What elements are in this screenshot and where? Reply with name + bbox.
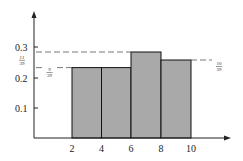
svg-text:39: 39 <box>217 67 223 72</box>
svg-text:39: 39 <box>47 73 53 78</box>
x-axis-arrow-icon <box>224 136 231 141</box>
fraction-label-9-39: 9 39 <box>47 67 53 78</box>
bar-8-10 <box>161 60 191 138</box>
x-tick-label: 4 <box>99 143 104 154</box>
bar-2-4 <box>72 68 102 138</box>
y-tick-label: 0.3 <box>15 42 28 53</box>
fraction-label-11-39: 11 39 <box>19 55 25 66</box>
svg-text:39: 39 <box>20 61 26 66</box>
fraction-label-10-39: 10 39 <box>216 61 222 72</box>
x-tick-label: 8 <box>159 143 164 154</box>
x-tick-label: 2 <box>70 143 75 154</box>
bar-4-6 <box>102 68 132 138</box>
svg-text:9: 9 <box>48 67 51 72</box>
x-tick-label: 6 <box>129 143 134 154</box>
histogram-chart: 0.3 0.2 0.1 2 4 6 8 10 11 39 9 39 10 39 <box>0 0 243 161</box>
svg-text:11: 11 <box>20 55 25 60</box>
bar-6-8 <box>131 52 161 138</box>
x-tick-label: 10 <box>186 143 196 154</box>
bars <box>72 52 191 138</box>
svg-text:10: 10 <box>217 61 223 66</box>
y-axis-arrow-icon <box>32 11 37 18</box>
y-tick-label: 0.1 <box>15 103 28 114</box>
y-tick-label: 0.2 <box>15 73 28 84</box>
